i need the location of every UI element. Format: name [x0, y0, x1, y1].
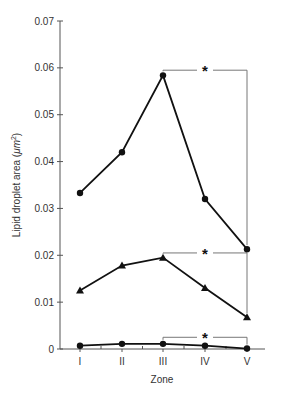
y-tick-label: 0.05: [35, 109, 55, 120]
y-tick-label: 0: [48, 344, 54, 355]
y-tick-label: 0.04: [35, 156, 55, 167]
circle-marker: [77, 190, 83, 196]
circle-marker: [119, 341, 125, 347]
data-series: [76, 72, 251, 352]
significance-bracket: *: [163, 62, 247, 245]
circle-marker: [202, 196, 208, 202]
circle-marker: [244, 246, 250, 252]
x-tick-label: III: [159, 356, 167, 367]
circle-marker: [160, 72, 166, 78]
axes: 00.010.020.030.040.050.060.07IIIIIIIVV: [35, 16, 265, 368]
significance-asterisk: *: [202, 245, 208, 262]
x-tick-label: I: [79, 356, 82, 367]
circle-marker: [119, 149, 125, 155]
x-tick-label: IV: [200, 356, 210, 367]
series-2: [76, 254, 251, 321]
significance-brackets: ***: [163, 62, 247, 346]
circle-marker: [160, 341, 166, 347]
x-tick-label: II: [119, 356, 125, 367]
series-1: [77, 72, 250, 252]
y-tick-label: 0.06: [35, 62, 55, 73]
triangle-marker: [159, 254, 167, 261]
y-axis-title: Lipid droplet area (μm2): [10, 133, 22, 237]
circle-marker: [77, 343, 83, 349]
circle-marker: [202, 343, 208, 349]
y-tick-label: 0.03: [35, 203, 55, 214]
significance-asterisk: *: [202, 62, 208, 79]
triangle-marker: [76, 286, 84, 293]
y-tick-label: 0.07: [35, 16, 55, 27]
y-tick-label: 0.01: [35, 297, 55, 308]
y-tick-label: 0.02: [35, 250, 55, 261]
significance-bracket: *: [163, 245, 247, 313]
x-axis-title: Zone: [151, 374, 174, 385]
x-tick-label: V: [244, 356, 251, 367]
line-chart: 00.010.020.030.040.050.060.07IIIIIIIVV *…: [0, 0, 283, 395]
circle-marker: [244, 345, 250, 351]
